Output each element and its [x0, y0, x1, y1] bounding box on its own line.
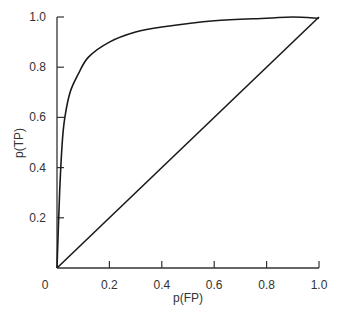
x-tick-label: 1.0	[311, 278, 328, 292]
chance-diagonal	[57, 17, 319, 268]
y-tick-label: 0.8	[29, 60, 46, 74]
x-tick-label: 0.6	[206, 278, 223, 292]
y-tick-label: 0.2	[29, 211, 46, 225]
x-tick-label: 0.2	[101, 278, 118, 292]
y-tick-label: 1.0	[29, 10, 46, 24]
x-tick-label: 0	[42, 278, 49, 292]
y-tick-label: 0.4	[29, 161, 46, 175]
y-tick-label: 0.6	[29, 110, 46, 124]
roc-chart: 00.20.40.60.81.00.20.40.60.81.0 p(FP) p(…	[0, 0, 341, 318]
plot-lines	[57, 17, 319, 268]
x-axis-label: p(FP)	[173, 291, 203, 305]
x-tick-label: 0.4	[153, 278, 170, 292]
y-axis-label: p(TP)	[12, 128, 26, 158]
x-tick-label: 0.8	[258, 278, 275, 292]
